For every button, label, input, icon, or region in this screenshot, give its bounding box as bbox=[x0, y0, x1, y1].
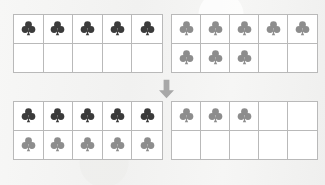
light-club-token[interactable] bbox=[201, 102, 230, 131]
light-club-token[interactable] bbox=[230, 44, 259, 73]
club-icon bbox=[178, 49, 195, 66]
club-icon bbox=[178, 20, 195, 37]
dark-club-token[interactable] bbox=[44, 102, 74, 131]
light-club-token[interactable] bbox=[230, 15, 259, 44]
club-icon bbox=[79, 107, 96, 124]
dark-club-token[interactable] bbox=[73, 15, 103, 44]
top-frames-row bbox=[13, 14, 318, 73]
club-icon bbox=[236, 49, 253, 66]
club-icon bbox=[207, 107, 224, 124]
light-club-token[interactable] bbox=[201, 15, 230, 44]
club-icon bbox=[207, 49, 224, 66]
club-icon bbox=[236, 107, 253, 124]
club-icon bbox=[294, 20, 311, 37]
ten-frame-bottom-left[interactable] bbox=[13, 101, 163, 160]
down-arrow bbox=[158, 79, 175, 99]
light-club-token[interactable] bbox=[172, 44, 201, 73]
club-icon bbox=[236, 20, 253, 37]
empty-cell[interactable] bbox=[288, 131, 317, 160]
club-icon bbox=[139, 107, 156, 124]
light-club-token[interactable] bbox=[132, 131, 162, 160]
light-club-token[interactable] bbox=[172, 15, 201, 44]
light-club-token[interactable] bbox=[14, 131, 44, 160]
dark-club-token[interactable] bbox=[103, 102, 133, 131]
empty-cell[interactable] bbox=[132, 44, 162, 73]
club-icon bbox=[109, 107, 126, 124]
club-icon bbox=[178, 107, 195, 124]
light-club-token[interactable] bbox=[172, 102, 201, 131]
dark-club-token[interactable] bbox=[132, 102, 162, 131]
dark-club-token[interactable] bbox=[103, 15, 133, 44]
empty-cell[interactable] bbox=[288, 44, 317, 73]
club-icon bbox=[139, 136, 156, 153]
dark-club-token[interactable] bbox=[14, 102, 44, 131]
ten-frame-top-left[interactable] bbox=[13, 14, 163, 73]
club-icon bbox=[139, 20, 156, 37]
club-icon bbox=[207, 20, 224, 37]
club-icon bbox=[49, 107, 66, 124]
dark-club-token[interactable] bbox=[14, 15, 44, 44]
light-club-token[interactable] bbox=[103, 131, 133, 160]
empty-cell[interactable] bbox=[230, 131, 259, 160]
empty-cell[interactable] bbox=[44, 44, 74, 73]
light-club-token[interactable] bbox=[259, 15, 288, 44]
dark-club-token[interactable] bbox=[132, 15, 162, 44]
bottom-frames-row bbox=[13, 101, 318, 160]
light-club-token[interactable] bbox=[201, 44, 230, 73]
empty-cell[interactable] bbox=[259, 131, 288, 160]
club-icon bbox=[109, 136, 126, 153]
empty-cell[interactable] bbox=[259, 44, 288, 73]
club-icon bbox=[79, 20, 96, 37]
down-arrow-icon bbox=[158, 79, 175, 99]
empty-cell[interactable] bbox=[201, 131, 230, 160]
club-icon bbox=[109, 20, 126, 37]
dark-club-token[interactable] bbox=[44, 15, 74, 44]
empty-cell[interactable] bbox=[288, 102, 317, 131]
club-icon bbox=[265, 20, 282, 37]
light-club-token[interactable] bbox=[288, 15, 317, 44]
dark-club-token[interactable] bbox=[73, 102, 103, 131]
empty-cell[interactable] bbox=[103, 44, 133, 73]
club-icon bbox=[49, 20, 66, 37]
empty-cell[interactable] bbox=[14, 44, 44, 73]
club-icon bbox=[49, 136, 66, 153]
ten-frame-bottom-right[interactable] bbox=[171, 101, 318, 160]
club-icon bbox=[79, 136, 96, 153]
light-club-token[interactable] bbox=[230, 102, 259, 131]
light-club-token[interactable] bbox=[44, 131, 74, 160]
club-icon bbox=[20, 20, 37, 37]
empty-cell[interactable] bbox=[259, 102, 288, 131]
club-icon bbox=[20, 136, 37, 153]
empty-cell[interactable] bbox=[73, 44, 103, 73]
worksheet-page bbox=[0, 0, 325, 185]
club-icon bbox=[20, 107, 37, 124]
light-club-token[interactable] bbox=[73, 131, 103, 160]
ten-frame-top-right[interactable] bbox=[171, 14, 318, 73]
empty-cell[interactable] bbox=[172, 131, 201, 160]
